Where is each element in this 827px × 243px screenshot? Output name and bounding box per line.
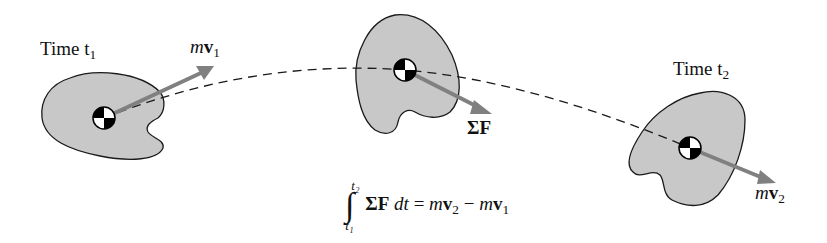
label-momentum-2: mv2	[755, 182, 785, 207]
center-of-mass-icon	[93, 107, 115, 129]
label-force: ΣF	[467, 117, 491, 139]
label-momentum-1: mv1	[190, 36, 220, 61]
label-time2: Time t2	[673, 58, 729, 83]
label-time1: Time t1	[40, 38, 96, 63]
impulse-momentum-equation: ∫t₂t₁ΣF dt = mv2 − mv1	[345, 180, 509, 226]
center-of-mass-icon	[394, 59, 416, 81]
center-of-mass-icon	[679, 137, 701, 159]
